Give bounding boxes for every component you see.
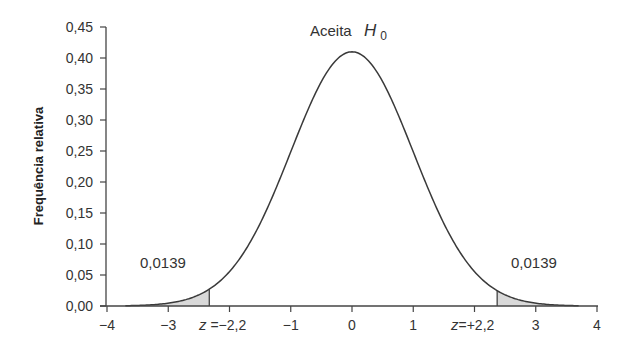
x-tick-label: 3	[532, 317, 540, 333]
y-axis-ticks: 0,000,050,100,150,200,250,300,350,400,45	[66, 19, 106, 314]
normal-distribution-chart: 0,000,050,100,150,200,250,300,350,400,45…	[0, 0, 620, 355]
x-axis-ticks: −4−3−10134	[99, 306, 601, 333]
y-tick-label: 0,35	[66, 81, 93, 97]
z-critical-left-label: z =−2,2	[198, 316, 246, 333]
left-tail-probability: 0,0139	[140, 254, 186, 271]
y-tick-label: 0,45	[66, 19, 93, 35]
y-tick-label: 0,30	[66, 112, 93, 128]
z-critical-right-label: z=+2,2	[450, 316, 495, 333]
y-tick-label: 0,15	[66, 205, 93, 221]
x-tick-label: −1	[283, 317, 299, 333]
x-tick-label: −4	[99, 317, 115, 333]
y-axis-label: Frequência relativa	[31, 106, 46, 225]
x-tick-label: 4	[593, 317, 601, 333]
accept-h0-label: Aceita H 0	[310, 21, 387, 43]
y-tick-label: 0,20	[66, 174, 93, 190]
y-tick-label: 0,10	[66, 236, 93, 252]
h-subscript: 0	[380, 29, 387, 43]
y-tick-label: 0,00	[66, 298, 93, 314]
right-tail-probability: 0,0139	[511, 254, 557, 271]
y-tick-label: 0,05	[66, 267, 93, 283]
h-symbol: H	[364, 21, 377, 40]
x-tick-label: −3	[160, 317, 176, 333]
y-tick-label: 0,25	[66, 143, 93, 159]
x-tick-label: 0	[348, 317, 356, 333]
y-tick-label: 0,40	[66, 50, 93, 66]
x-tick-label: 1	[409, 317, 417, 333]
accept-text: Aceita	[310, 22, 352, 39]
